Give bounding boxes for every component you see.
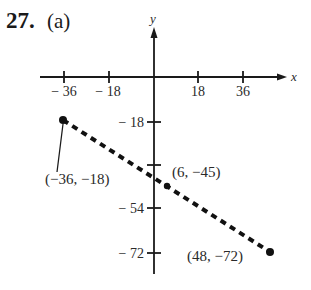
point-end: [266, 248, 274, 256]
point-mid: [164, 183, 170, 189]
y-tick-label: − 72: [119, 246, 144, 261]
point-label-start: (−36, −18): [45, 171, 109, 188]
x-axis-arrow-icon: [277, 74, 287, 81]
y-axis-arrow-icon: [151, 27, 158, 38]
y-axis-label: y: [148, 11, 156, 26]
x-tick-label: − 36: [51, 84, 76, 99]
point-start: [59, 116, 67, 124]
x-axis-label: x: [290, 69, 297, 84]
y-tick-label: − 18: [119, 115, 144, 130]
point-label-mid: (6, −45): [172, 164, 220, 181]
x-tick-label: 36: [236, 84, 250, 99]
coordinate-plot: x y − 36 − 18 18 36 − 18 − 54 − 72 (−36,…: [0, 0, 311, 290]
point-label-end: (48, −72): [187, 248, 243, 265]
leader-line: [57, 124, 63, 172]
x-tick-label: 18: [191, 84, 205, 99]
x-tick-label: − 18: [95, 84, 120, 99]
y-tick-label: − 54: [119, 201, 144, 216]
